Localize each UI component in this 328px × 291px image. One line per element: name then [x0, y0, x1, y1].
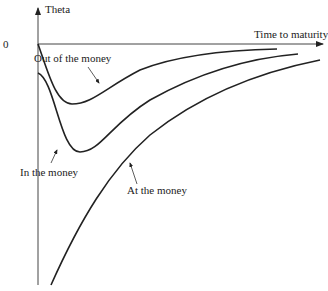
- y-tick-zero: 0: [3, 39, 9, 50]
- y-axis-label: Theta: [45, 4, 70, 15]
- arrow-itm: [51, 150, 57, 163]
- arrow-atm: [130, 163, 137, 184]
- series-at-the-money: [51, 60, 320, 285]
- arrow-otm: [88, 67, 99, 83]
- label-out-of-the-money: Out of the money: [34, 53, 111, 64]
- theta-chart: [0, 0, 328, 291]
- x-axis-label: Time to maturity: [254, 29, 328, 40]
- label-at-the-money: At the money: [127, 185, 187, 196]
- label-in-the-money: In the money: [20, 167, 78, 178]
